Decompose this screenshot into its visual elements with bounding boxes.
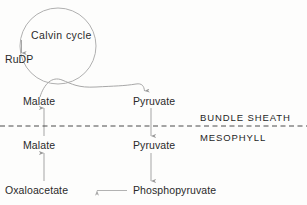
metabolite-malate-bundle-sheath: Malate [23, 96, 55, 107]
metabolite-malate-mesophyll: Malate [23, 140, 55, 151]
calvin-cycle-label: Calvin cycle [31, 30, 92, 41]
arrow-malate-to-pyruvate-curve [40, 79, 145, 97]
metabolite-pyruvate-bundle-sheath: Pyruvate [133, 96, 175, 107]
metabolite-phosphopyruvate: Phosphopyruvate [133, 185, 216, 196]
metabolite-oxaloacetate: Oxaloacetate [5, 185, 68, 196]
c4-pathway-diagram: Calvin cycle RuDP Malate Pyruvate Malate… [0, 0, 307, 205]
metabolite-rudp: RuDP [5, 54, 33, 65]
metabolite-pyruvate-mesophyll: Pyruvate [133, 140, 175, 151]
compartment-label-mesophyll: MESOPHYLL [200, 133, 266, 143]
calvin-cycle-circle [20, 8, 96, 84]
compartment-label-bundle-sheath: BUNDLE SHEATH [200, 113, 291, 123]
